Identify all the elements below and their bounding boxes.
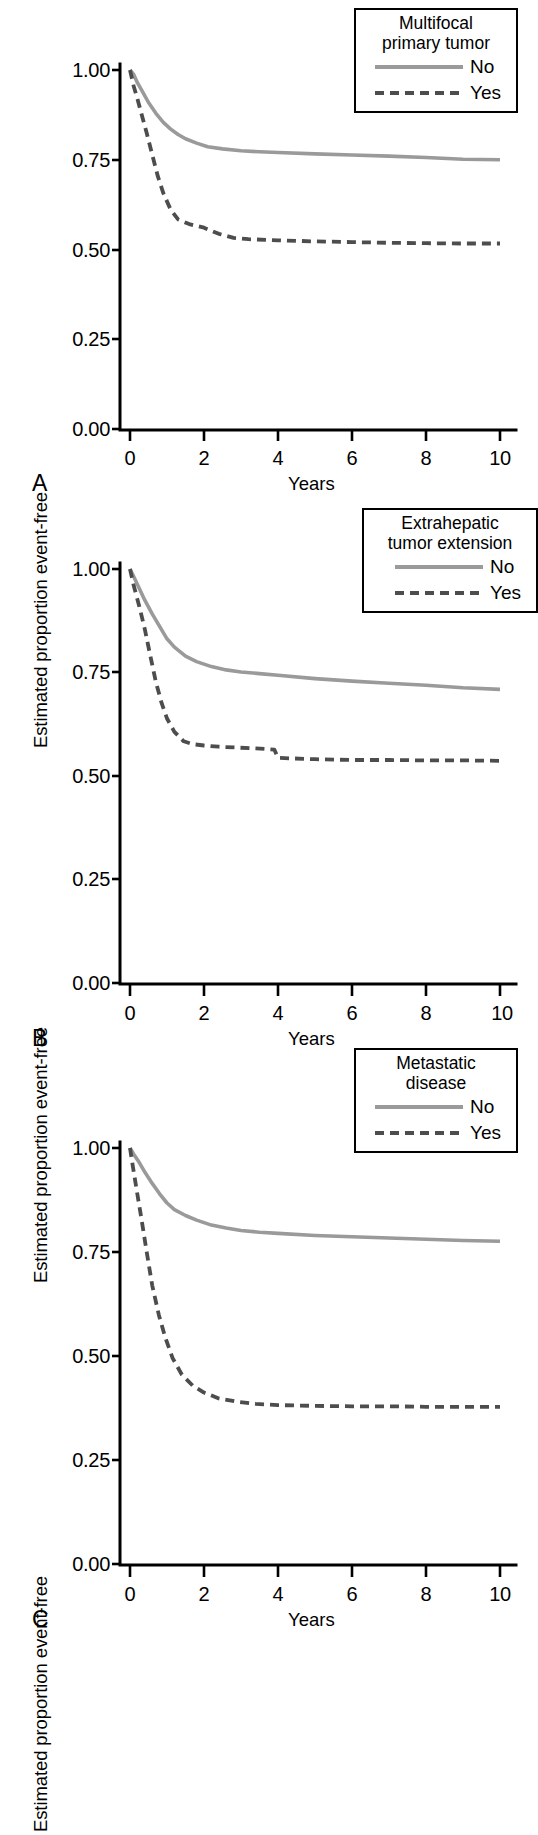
panel-a-xtick-1: 0: [110, 448, 150, 468]
panel-c-x-ticks: [130, 1565, 500, 1577]
panel-b-legend-label-yes: Yes: [490, 583, 528, 602]
panel-c-xtick-2: 2: [184, 1584, 224, 1604]
panel-a-legend-title-line-1: Multifocal: [364, 14, 508, 34]
panel-a-legend: Multifocal primary tumor No Yes: [354, 8, 518, 113]
panel-a-legend-title-line-2: primary tumor: [364, 34, 508, 54]
panel-b-legend-title-line-1: Extrahepatic: [372, 514, 528, 534]
panel-c-legend: Metastatic disease No Yes: [354, 1048, 518, 1153]
panel-a-xtick-6: 10: [480, 448, 520, 468]
panel-c-legend-title-line-2: disease: [364, 1074, 508, 1094]
panel-b: Estimated proportion event-free 1.00 0.7…: [0, 500, 524, 1036]
panel-b-xtick-5: 8: [406, 1003, 446, 1023]
panel-b-legend-row-yes: Yes: [372, 580, 528, 606]
panel-a-legend-row-no: No: [364, 54, 508, 80]
panel-a-legend-label-no: No: [470, 57, 508, 76]
panel-a-axes: [120, 64, 516, 430]
panel-c-legend-row-no: No: [364, 1094, 508, 1120]
panel-c-xtick-4: 6: [332, 1584, 372, 1604]
panel-b-x-ticks: [130, 984, 500, 996]
panel-a-xtick-3: 4: [258, 448, 298, 468]
panel-c-letter: C: [32, 1608, 49, 1631]
panel-c-xtick-5: 8: [406, 1584, 446, 1604]
panel-b-xtick-3: 4: [258, 1003, 298, 1023]
panel-a-legend-label-yes: Yes: [470, 83, 508, 102]
panel-a-legend-row-yes: Yes: [364, 80, 508, 106]
panel-c-x-axis-title: Years: [288, 1609, 335, 1631]
panel-c-xtick-6: 10: [480, 1584, 520, 1604]
panel-a-x-ticks: [130, 430, 500, 441]
panel-a-xtick-5: 8: [406, 448, 446, 468]
panel-b-axes: [120, 563, 516, 984]
panel-a-x-axis-title: Years: [288, 473, 335, 495]
panel-c-xtick-3: 4: [258, 1584, 298, 1604]
panel-a-letter: A: [32, 472, 47, 495]
panel-a: Estimated proportion event-free 1.00 0.7…: [0, 0, 524, 500]
panel-c-axes: [120, 1142, 516, 1565]
panel-c-xtick-1: 0: [110, 1584, 150, 1604]
panel-b-legend-label-no: No: [490, 557, 528, 576]
panel-b-xtick-6: 10: [482, 1003, 522, 1023]
panel-a-xtick-2: 2: [184, 448, 224, 468]
panel-b-xtick-2: 2: [184, 1003, 224, 1023]
dashed-line-key-icon: [375, 1131, 463, 1135]
panel-c-legend-row-yes: Yes: [364, 1120, 508, 1146]
panel-c-curve-yes: [130, 1148, 500, 1407]
panel-b-xtick-1: 0: [110, 1003, 150, 1023]
panel-a-xtick-4: 6: [332, 448, 372, 468]
solid-line-key-icon: [395, 565, 483, 569]
panel-b-legend-row-no: No: [372, 554, 528, 580]
panel-b-legend: Extrahepatic tumor extension No Yes: [362, 508, 538, 613]
panel-c-legend-title-line-1: Metastatic: [364, 1054, 508, 1074]
dashed-line-key-icon: [395, 591, 483, 595]
solid-line-key-icon: [375, 1105, 463, 1109]
panel-c-legend-label-no: No: [470, 1097, 508, 1116]
panel-b-xtick-4: 6: [332, 1003, 372, 1023]
panel-c: Estimated proportion event-free 1.00 0.7…: [0, 1036, 524, 1603]
panel-b-legend-title-line-2: tumor extension: [372, 534, 528, 554]
dashed-line-key-icon: [375, 91, 463, 95]
panel-c-curve-no: [130, 1148, 500, 1241]
solid-line-key-icon: [375, 65, 463, 69]
panel-c-legend-label-yes: Yes: [470, 1123, 508, 1142]
